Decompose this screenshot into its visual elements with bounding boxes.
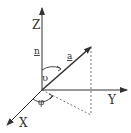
theta-arc-arrowhead	[57, 66, 61, 71]
vector-a-label: a	[67, 51, 73, 61]
y-axis-label: Y	[107, 93, 117, 107]
x-axis-label: X	[19, 116, 28, 130]
theta-label: υ	[42, 72, 48, 83]
z-axis-label: Z	[32, 18, 40, 32]
theta-arc	[42, 67, 60, 70]
phi-label: φ	[38, 97, 44, 107]
coordinate-diagram: Z Y X n a υ φ	[0, 0, 131, 133]
normal-label: n	[34, 46, 40, 56]
